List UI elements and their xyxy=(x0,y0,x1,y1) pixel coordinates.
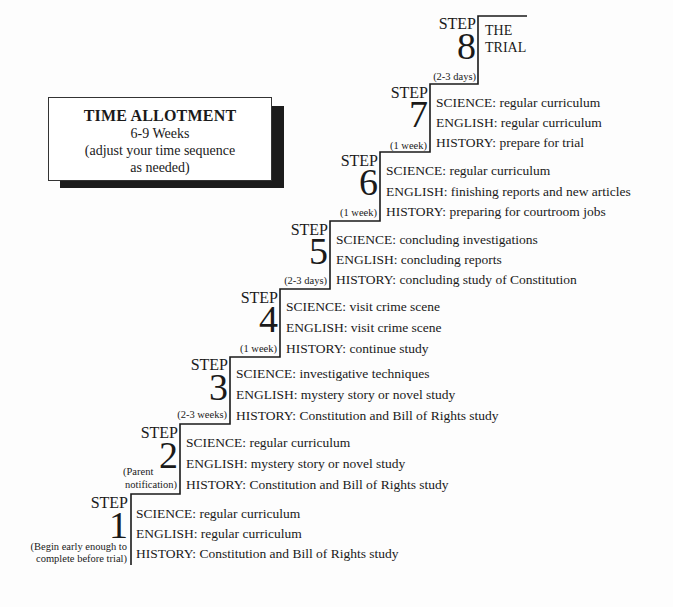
time-allotment-title: TIME ALLOTMENT xyxy=(49,107,271,125)
step-number: 3 xyxy=(188,370,228,404)
time-allotment-box: TIME ALLOTMENT 6-9 Weeks (adjust your ti… xyxy=(48,97,272,181)
step-english: ENGLISH: visit crime scene xyxy=(286,317,442,338)
step-history: HISTORY: Constitution and Bill of Rights… xyxy=(136,543,399,564)
step-history: HISTORY: concluding study of Constitutio… xyxy=(336,269,577,290)
trial-title-line-2: TRIAL xyxy=(485,39,526,57)
step-history: HISTORY: continue study xyxy=(286,338,429,359)
step-science: SCIENCE: regular curriculum xyxy=(436,92,600,113)
step-science: SCIENCE: regular curriculum xyxy=(386,160,550,181)
step-science: SCIENCE: visit crime scene xyxy=(286,296,440,317)
step-duration: (2-3 weeks) xyxy=(177,409,227,421)
step-english: ENGLISH: regular curriculum xyxy=(436,112,602,133)
step-duration-note: complete before trial) xyxy=(36,553,127,565)
step-number: 6 xyxy=(338,165,378,199)
time-allotment-note-2: as needed) xyxy=(49,159,271,176)
step-duration: (2-3 days) xyxy=(284,275,327,287)
step-number: 8 xyxy=(436,29,476,63)
trial-title-line-1: THE xyxy=(485,22,512,40)
step-science: SCIENCE: regular curriculum xyxy=(136,503,300,524)
step-english: ENGLISH: concluding reports xyxy=(336,249,502,270)
time-allotment-note-1: (adjust your time sequence xyxy=(49,142,271,159)
step-duration: (1 week) xyxy=(240,343,277,355)
step-duration-note: (Begin early enough to xyxy=(30,541,127,553)
step-science: SCIENCE: concluding investigations xyxy=(336,229,538,250)
step-history: HISTORY: preparing for courtroom jobs xyxy=(386,201,606,222)
step-science: SCIENCE: regular curriculum xyxy=(186,432,350,453)
step-duration-note: notification) xyxy=(125,479,177,491)
step-number: 7 xyxy=(388,97,428,131)
step-duration: (2-3 days) xyxy=(433,71,476,83)
step-history: HISTORY: prepare for trial xyxy=(436,132,584,153)
step-english: ENGLISH: regular curriculum xyxy=(136,523,302,544)
step-duration: (1 week) xyxy=(390,140,427,152)
step-english: ENGLISH: mystery story or novel study xyxy=(236,384,455,405)
step-history: HISTORY: Constitution and Bill of Rights… xyxy=(236,405,499,426)
step-duration: (1 week) xyxy=(340,207,377,219)
step-number: 5 xyxy=(288,234,328,268)
step-duration-note: (Parent xyxy=(123,466,153,478)
step-history: HISTORY: Constitution and Bill of Rights… xyxy=(186,474,449,495)
step-english: ENGLISH: finishing reports and new artic… xyxy=(386,181,631,202)
step-english: ENGLISH: mystery story or novel study xyxy=(186,453,405,474)
step-science: SCIENCE: investigative techniques xyxy=(236,363,429,384)
time-allotment-duration: 6-9 Weeks xyxy=(49,125,271,142)
step-number: 4 xyxy=(238,302,278,336)
step-number: 1 xyxy=(88,508,128,542)
